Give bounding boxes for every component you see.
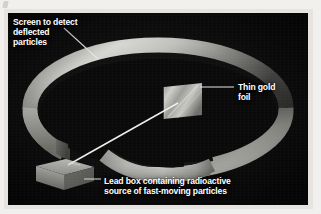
screen-label-line-3: particles xyxy=(13,37,77,47)
screen-label-line-2: deflected xyxy=(13,27,77,37)
figure-root: Screen to detect deflected particles Thi… xyxy=(0,0,321,214)
particle-beam-line xyxy=(68,103,178,165)
lead-box-label: Lead box containing radioactive source o… xyxy=(104,176,231,196)
gold-foil-label-line-1: Thin gold xyxy=(238,82,275,92)
scan-artifact-speck xyxy=(2,1,8,8)
lead-box-label-line-1: Lead box containing radioactive xyxy=(104,176,231,186)
screen-label: Screen to detect deflected particles xyxy=(13,17,77,48)
gold-foil-label-line-2: foil xyxy=(238,92,275,102)
lead-box-label-line-2: source of fast-moving particles xyxy=(104,186,231,196)
diagram-plate: Screen to detect deflected particles Thi… xyxy=(8,13,308,205)
gold-foil-label: Thin gold foil xyxy=(238,82,275,102)
screen-label-line-1: Screen to detect xyxy=(13,17,77,27)
